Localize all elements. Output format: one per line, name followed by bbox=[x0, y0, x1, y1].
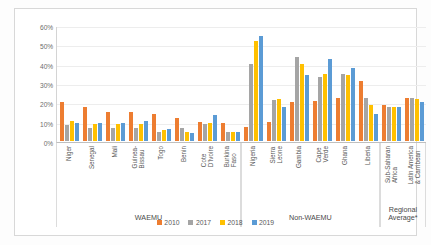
plot-area bbox=[56, 27, 426, 143]
bar bbox=[282, 107, 286, 141]
bar bbox=[272, 100, 276, 141]
bar bbox=[405, 98, 409, 141]
bar bbox=[290, 102, 294, 141]
bar bbox=[392, 107, 396, 141]
y-tick-label: 10% bbox=[40, 120, 53, 127]
bar bbox=[144, 121, 148, 141]
bar bbox=[88, 128, 92, 141]
bar bbox=[267, 122, 271, 141]
bar bbox=[420, 102, 424, 141]
bar bbox=[203, 124, 207, 141]
y-tick-label: 50% bbox=[40, 43, 53, 50]
legend-item[interactable]: 2019 bbox=[252, 219, 275, 226]
bar-group bbox=[311, 27, 334, 141]
bar bbox=[213, 115, 217, 141]
bar bbox=[180, 128, 184, 141]
y-tick-label: 60% bbox=[40, 24, 53, 31]
legend-label: 2018 bbox=[227, 219, 242, 226]
bar bbox=[328, 59, 332, 141]
bar bbox=[397, 107, 401, 141]
bar bbox=[415, 99, 419, 141]
group-band: WAEMU bbox=[56, 143, 241, 227]
bar bbox=[226, 132, 230, 141]
bar-group bbox=[334, 27, 357, 141]
y-axis-tick-labels: 0%10%20%30%40%50%60% bbox=[29, 27, 55, 143]
legend-item[interactable]: 2018 bbox=[220, 219, 243, 226]
legend-item[interactable]: 2017 bbox=[188, 219, 211, 226]
bar bbox=[336, 98, 340, 141]
chart-screenshot: 0%10%20%30%40%50%60% NigerSenegalMaliGui… bbox=[0, 0, 431, 245]
bar-group bbox=[265, 27, 288, 141]
y-tick-label: 20% bbox=[40, 101, 53, 108]
legend-swatch-icon bbox=[157, 220, 162, 225]
bar-group bbox=[219, 27, 242, 141]
bar bbox=[254, 41, 258, 141]
bar bbox=[221, 123, 225, 141]
bar-group bbox=[127, 27, 150, 141]
bar-group bbox=[150, 27, 173, 141]
bar bbox=[185, 132, 189, 141]
bar bbox=[364, 98, 368, 141]
bar bbox=[175, 118, 179, 141]
bar bbox=[277, 99, 281, 141]
bar bbox=[60, 102, 64, 141]
bar bbox=[259, 36, 263, 141]
bar bbox=[111, 128, 115, 141]
legend-swatch-icon bbox=[252, 220, 257, 225]
bar bbox=[98, 123, 102, 141]
bar bbox=[83, 107, 87, 141]
bar-groups bbox=[58, 27, 426, 141]
bar bbox=[359, 81, 363, 141]
bar bbox=[65, 125, 69, 141]
bar bbox=[236, 132, 240, 141]
bar-group bbox=[196, 27, 219, 141]
y-tick-label: 30% bbox=[40, 82, 53, 89]
group-band: Non-WAEMU bbox=[241, 143, 380, 227]
bar bbox=[208, 123, 212, 141]
bar bbox=[323, 74, 327, 141]
bar bbox=[346, 75, 350, 141]
bar-group bbox=[81, 27, 104, 141]
bar bbox=[75, 123, 79, 141]
legend-swatch-icon bbox=[220, 220, 225, 225]
bar bbox=[318, 77, 322, 141]
y-tick-label: 40% bbox=[40, 62, 53, 69]
bar bbox=[167, 129, 171, 141]
bar bbox=[369, 105, 373, 141]
bar bbox=[190, 133, 194, 141]
bar bbox=[121, 123, 125, 141]
bar-group bbox=[357, 27, 380, 141]
bar-group bbox=[173, 27, 196, 141]
bar bbox=[152, 114, 156, 141]
chart-legend: 2010201720182019 bbox=[15, 219, 416, 226]
group-band: Regional Average* bbox=[380, 143, 426, 227]
y-tick-label: 0% bbox=[44, 140, 53, 147]
bar bbox=[70, 121, 74, 141]
bar bbox=[129, 112, 133, 141]
bar bbox=[313, 101, 317, 141]
legend-label: 2017 bbox=[196, 219, 211, 226]
bar-group bbox=[288, 27, 311, 141]
bar bbox=[387, 107, 391, 141]
legend-item[interactable]: 2010 bbox=[157, 219, 180, 226]
legend-swatch-icon bbox=[188, 220, 193, 225]
bar-group bbox=[58, 27, 81, 141]
legend-label: 2010 bbox=[164, 219, 179, 226]
chart-figure-frame: 0%10%20%30%40%50%60% NigerSenegalMaliGui… bbox=[14, 8, 417, 236]
bar bbox=[106, 112, 110, 141]
bar bbox=[244, 127, 248, 141]
bar bbox=[382, 105, 386, 141]
bar bbox=[198, 122, 202, 141]
bar-group bbox=[242, 27, 265, 141]
bar bbox=[341, 74, 345, 141]
bar-group bbox=[403, 27, 426, 141]
bar bbox=[162, 130, 166, 141]
plot-area-wrapper bbox=[56, 27, 426, 143]
bar bbox=[351, 68, 355, 141]
group-bands: WAEMUNon-WAEMURegional Average* bbox=[56, 143, 426, 227]
bar bbox=[139, 124, 143, 141]
bar bbox=[410, 98, 414, 141]
bar bbox=[116, 124, 120, 141]
bar bbox=[300, 64, 304, 141]
bar bbox=[157, 132, 161, 141]
